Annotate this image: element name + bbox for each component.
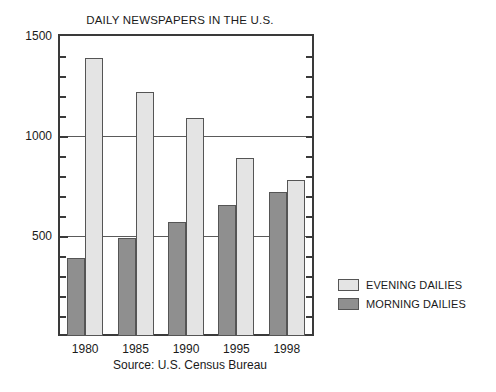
plot-area [60, 36, 312, 336]
x-axis-tick-label-1998: 1998 [252, 342, 322, 356]
chart-legend: EVENING DAILIES MORNING DAILIES [338, 276, 494, 314]
y-axis-minor-tick [60, 176, 66, 178]
legend-swatch-evening-icon [338, 279, 359, 291]
y-axis-major-tick [60, 136, 68, 138]
chart-title: DAILY NEWSPAPERS IN THE U.S. [0, 14, 360, 26]
y-axis-minor-tick-right [306, 316, 312, 318]
y-axis-minor-tick [60, 76, 66, 78]
bar-morning-1985 [118, 238, 136, 336]
y-axis-minor-tick [60, 196, 66, 198]
y-axis-minor-tick-right [306, 236, 312, 238]
bar-morning-1998 [269, 192, 287, 336]
y-axis-minor-tick-right [306, 116, 312, 118]
bar-morning-1990 [168, 222, 186, 336]
y-axis-minor-tick [60, 216, 66, 218]
bar-evening-1985 [136, 92, 154, 336]
y-axis-minor-tick [60, 316, 66, 318]
y-axis-tick-label: 1000 [0, 129, 52, 143]
y-axis-minor-tick-right [306, 96, 312, 98]
y-axis-minor-tick [60, 96, 66, 98]
bar-evening-1980 [85, 58, 103, 336]
y-axis-minor-tick-right [306, 176, 312, 178]
y-axis-minor-tick [60, 256, 66, 258]
bar-morning-1995 [218, 205, 236, 336]
y-axis-minor-tick-right [306, 256, 312, 258]
y-axis-minor-tick [60, 56, 66, 58]
y-axis-major-tick [60, 236, 68, 238]
legend-swatch-morning-icon [338, 298, 359, 310]
y-axis-minor-tick-right [306, 276, 312, 278]
bar-evening-1990 [186, 118, 204, 336]
y-axis-minor-tick-right [306, 56, 312, 58]
legend-label-morning: MORNING DAILIES [366, 298, 466, 310]
y-axis-tick-label: 1500 [0, 29, 52, 43]
y-axis-minor-tick-right [306, 136, 312, 138]
y-axis-minor-tick-right [306, 216, 312, 218]
bar-morning-1980 [67, 258, 85, 336]
y-axis-tick-label: 500 [0, 229, 52, 243]
y-axis-minor-tick-right [306, 76, 312, 78]
bar-evening-1998 [287, 180, 305, 336]
y-axis-minor-tick [60, 296, 66, 298]
y-axis-minor-tick [60, 276, 66, 278]
y-axis-minor-tick-right [306, 156, 312, 158]
chart-figure: DAILY NEWSPAPERS IN THE U.S. 50010001500… [0, 0, 496, 392]
bar-evening-1995 [236, 158, 254, 336]
y-axis-minor-tick [60, 116, 66, 118]
legend-label-evening: EVENING DAILIES [366, 279, 462, 291]
y-axis-minor-tick-right [306, 296, 312, 298]
source-caption: Source: U.S. Census Bureau [0, 358, 380, 372]
legend-item-morning: MORNING DAILIES [338, 295, 494, 312]
y-axis-minor-tick-right [306, 196, 312, 198]
legend-item-evening: EVENING DAILIES [338, 276, 494, 293]
y-axis-minor-tick [60, 156, 66, 158]
